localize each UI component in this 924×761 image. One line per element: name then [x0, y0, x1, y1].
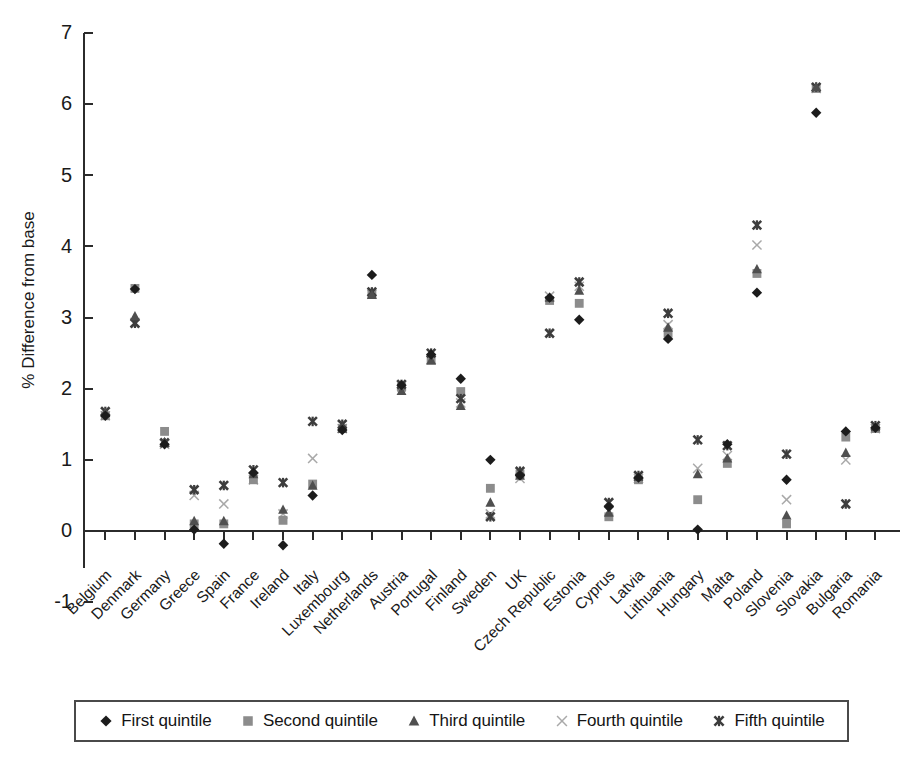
data-point-diamond — [485, 455, 495, 465]
y-tick-labels: -101234567 — [54, 21, 72, 612]
data-point-x-bold — [753, 220, 762, 230]
chart-container: -101234567 % Difference from base Belgiu… — [0, 0, 924, 761]
data-point-x-bold — [190, 485, 199, 495]
first-quintile-marker-icon — [98, 713, 114, 729]
data-point-triangle — [278, 504, 288, 513]
data-point-triangle — [485, 497, 495, 506]
data-point-diamond — [693, 524, 703, 534]
y-tick-label: 7 — [61, 21, 72, 43]
data-point-triangle — [130, 311, 140, 320]
data-point-x-light — [219, 499, 228, 508]
y-tick-label: 0 — [61, 519, 72, 541]
legend-item: First quintile — [98, 711, 211, 731]
data-point-square — [279, 516, 288, 525]
legend-item-label: Fourth quintile — [577, 711, 683, 731]
data-point-diamond — [307, 490, 317, 500]
y-tick-label: 1 — [61, 448, 72, 470]
y-axis-group: -101234567 % Difference from base — [19, 21, 93, 612]
data-point-x-light — [752, 240, 761, 249]
legend-item-label: First quintile — [121, 711, 211, 731]
data-point-square — [693, 495, 702, 504]
legend-item: Fifth quintile — [711, 711, 824, 731]
data-point-triangle — [782, 510, 792, 519]
series-fourth-quintile — [101, 84, 880, 519]
data-point-x-bold — [308, 417, 317, 427]
fourth-quintile-marker-icon — [554, 713, 570, 729]
third-quintile-marker-icon — [406, 713, 422, 729]
y-axis-label: % Difference from base — [19, 211, 38, 388]
data-point-square — [160, 427, 169, 436]
data-point-square — [243, 716, 253, 726]
data-point-triangle — [752, 264, 762, 273]
data-point-triangle — [841, 448, 851, 457]
legend-item: Second quintile — [240, 711, 378, 731]
y-tick-label: 2 — [61, 377, 72, 399]
data-point-diamond — [781, 475, 791, 485]
x-axis-group: BelgiumDenmarkGermanyGreeceSpainFranceIr… — [63, 531, 900, 655]
x-tick-marks — [105, 532, 875, 540]
y-tick-label: 6 — [61, 92, 72, 114]
data-point-x-bold — [664, 309, 673, 319]
data-point-diamond — [219, 539, 229, 549]
fifth-quintile-marker-icon — [711, 713, 727, 729]
data-point-diamond — [278, 540, 288, 550]
data-point-x-bold — [279, 478, 288, 488]
data-point-triangle — [722, 453, 732, 462]
data-point-x-bold — [220, 481, 229, 491]
data-point-diamond — [811, 107, 821, 117]
data-point-x-bold — [545, 328, 554, 338]
legend-item: Fourth quintile — [554, 711, 683, 731]
data-point-diamond — [456, 374, 466, 384]
legend-item-label: Third quintile — [429, 711, 525, 731]
data-point-triangle — [663, 322, 673, 331]
data-point-x-bold — [693, 435, 702, 445]
data-point-square — [575, 299, 584, 308]
legend-item-label: Fifth quintile — [734, 711, 824, 731]
legend-item: Third quintile — [406, 711, 525, 731]
y-tick-label: 4 — [61, 235, 72, 257]
data-point-x-bold — [715, 716, 724, 726]
data-point-diamond — [574, 315, 584, 325]
data-point-x-bold — [842, 499, 851, 509]
data-point-x-light — [308, 454, 317, 463]
data-point-square — [486, 484, 495, 493]
data-point-diamond — [604, 502, 614, 512]
data-point-triangle — [409, 715, 420, 725]
y-tick-label: 5 — [61, 164, 72, 186]
data-point-triangle — [693, 469, 703, 478]
chart-legend: First quintile Second quintile Third qui… — [74, 700, 849, 742]
data-point-diamond — [752, 287, 762, 297]
data-point-square — [782, 519, 791, 528]
y-tick-label: 3 — [61, 306, 72, 328]
scatter-plot: -101234567 % Difference from base Belgiu… — [0, 0, 924, 761]
data-point-x-light — [557, 716, 567, 726]
second-quintile-marker-icon — [240, 713, 256, 729]
y-tick-marks — [84, 33, 93, 602]
data-point-layer — [100, 82, 880, 551]
data-point-x-bold — [782, 449, 791, 459]
data-point-x-light — [782, 495, 791, 504]
data-point-diamond — [101, 715, 112, 726]
legend-item-label: Second quintile — [263, 711, 378, 731]
x-tick-labels: BelgiumDenmarkGermanyGreeceSpainFranceIr… — [63, 566, 885, 655]
data-point-diamond — [367, 270, 377, 280]
